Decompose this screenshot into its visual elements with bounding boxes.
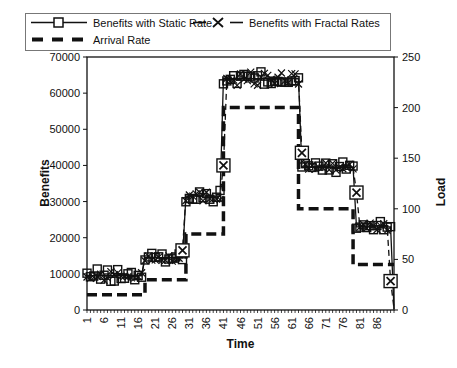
series-line-2 xyxy=(87,108,394,295)
svg-text:76: 76 xyxy=(337,317,349,329)
svg-text:60000: 60000 xyxy=(49,87,80,99)
svg-text:36: 36 xyxy=(200,317,212,329)
y-axis-title-benefits: Benefits xyxy=(38,141,52,225)
chart-canvas: 0100002000030000400005000060000700000501… xyxy=(0,0,457,368)
legend-sample-x-dash-line-icon xyxy=(192,16,244,29)
series-markers-1 xyxy=(84,69,391,284)
svg-text:46: 46 xyxy=(235,317,247,329)
svg-text:200: 200 xyxy=(402,102,420,114)
y-axis-title-load: Load xyxy=(434,168,448,216)
svg-text:70000: 70000 xyxy=(49,51,80,63)
series-line-0 xyxy=(87,79,394,309)
svg-text:71: 71 xyxy=(320,317,332,329)
legend-item-fractal: Benefits with Fractal Rates xyxy=(192,16,380,29)
svg-text:51: 51 xyxy=(252,317,264,329)
svg-text:50: 50 xyxy=(402,253,414,265)
x-axis: 1611162126313641465156616671768186 xyxy=(81,310,394,329)
svg-text:10000: 10000 xyxy=(49,268,80,280)
svg-text:26: 26 xyxy=(166,317,178,329)
plot-border xyxy=(87,57,394,310)
svg-text:50000: 50000 xyxy=(49,123,80,135)
svg-text:40000: 40000 xyxy=(49,159,80,171)
svg-text:30000: 30000 xyxy=(49,196,80,208)
fractal-transition-markers xyxy=(176,146,397,287)
chart-legend: Benefits with Static Rate Benefits with … xyxy=(25,13,391,51)
legend-item-static: Benefits with Static Rate xyxy=(30,16,212,29)
svg-text:20000: 20000 xyxy=(49,232,80,244)
svg-text:81: 81 xyxy=(354,317,366,329)
y-axis-right: 050100150200250 xyxy=(394,51,420,316)
legend-sample-thick-dash-icon xyxy=(30,33,88,46)
series-markers-0 xyxy=(83,68,395,285)
series-line-1 xyxy=(87,79,394,309)
legend-label-fractal: Benefits with Fractal Rates xyxy=(249,17,380,29)
svg-text:0: 0 xyxy=(402,304,408,316)
legend-label-arrival: Arrival Rate xyxy=(93,34,150,46)
svg-text:250: 250 xyxy=(402,51,420,63)
svg-text:31: 31 xyxy=(183,317,195,329)
svg-text:1: 1 xyxy=(81,317,93,323)
svg-text:66: 66 xyxy=(303,317,315,329)
svg-text:0: 0 xyxy=(74,304,80,316)
svg-text:41: 41 xyxy=(217,317,229,329)
svg-text:86: 86 xyxy=(371,317,383,329)
svg-text:21: 21 xyxy=(149,317,161,329)
svg-text:56: 56 xyxy=(269,317,281,329)
chart-figure: 0100002000030000400005000060000700000501… xyxy=(0,0,457,368)
legend-sample-square-line-icon xyxy=(30,16,88,29)
svg-text:6: 6 xyxy=(98,317,110,323)
svg-text:100: 100 xyxy=(402,203,420,215)
x-axis-title-time: Time xyxy=(87,337,394,351)
svg-text:16: 16 xyxy=(132,317,144,329)
svg-text:150: 150 xyxy=(402,152,420,164)
legend-item-arrival: Arrival Rate xyxy=(30,33,150,46)
svg-text:11: 11 xyxy=(115,317,127,328)
svg-text:61: 61 xyxy=(286,317,298,329)
y-axis-left: 010000200003000040000500006000070000 xyxy=(49,51,87,316)
